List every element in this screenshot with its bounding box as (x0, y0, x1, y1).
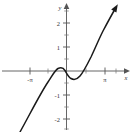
graph-figure: -π π 2 1 -1 -2 y x (0, 0, 132, 132)
x-tick-label-neg-pi: -π (27, 76, 33, 83)
coordinate-plot: -π π 2 1 -1 -2 y x (0, 0, 132, 132)
y-tick-label-neg-2: -2 (55, 116, 60, 123)
y-tick-label-neg-1: -1 (55, 92, 60, 99)
x-tick-label-pi: π (103, 76, 107, 83)
x-axis-label: x (124, 74, 128, 81)
y-axis-label: y (58, 4, 62, 11)
y-tick-label-1: 1 (57, 44, 60, 51)
x-axis-right-arrow-icon (124, 68, 130, 74)
y-axis-up-arrow-icon (64, 3, 70, 9)
y-tick-label-2: 2 (57, 20, 60, 27)
y-axis (63, 3, 70, 130)
curve-arrow-icon (111, 4, 118, 12)
